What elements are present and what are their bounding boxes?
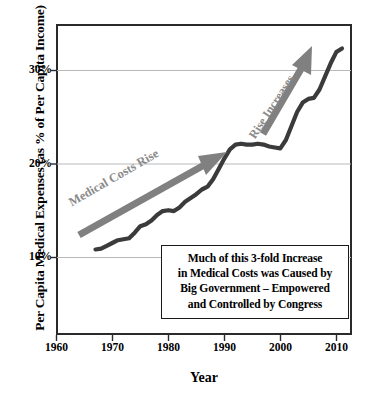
- x-tick-label-2010: 2010: [309, 341, 365, 353]
- plot-graphics: [0, 0, 377, 398]
- x-tick-label-1980: 1980: [141, 341, 197, 353]
- x-axis-title: Year: [56, 370, 352, 386]
- x-tick-label-2000: 2000: [253, 341, 309, 353]
- callout-line-3: Big Government – Empowered: [166, 281, 344, 296]
- callout-line-2: in Medical Costs was Caused by: [166, 266, 344, 281]
- x-tick-label-1970: 1970: [85, 341, 141, 353]
- callout-line-4: and Controlled by Congress: [166, 297, 344, 312]
- y-tick-marks: [51, 71, 57, 258]
- callout-line-1: Much of this 3-fold Increase: [166, 251, 344, 266]
- data-line-medical-expenses: [96, 48, 343, 249]
- chart-figure: Per Capita Medical Expenses (as % of Per…: [0, 0, 377, 398]
- x-tick-label-1990: 1990: [197, 341, 253, 353]
- x-tick-label-1960: 1960: [29, 341, 85, 353]
- callout-textbox: Much of this 3-fold Increase in Medical …: [161, 245, 349, 319]
